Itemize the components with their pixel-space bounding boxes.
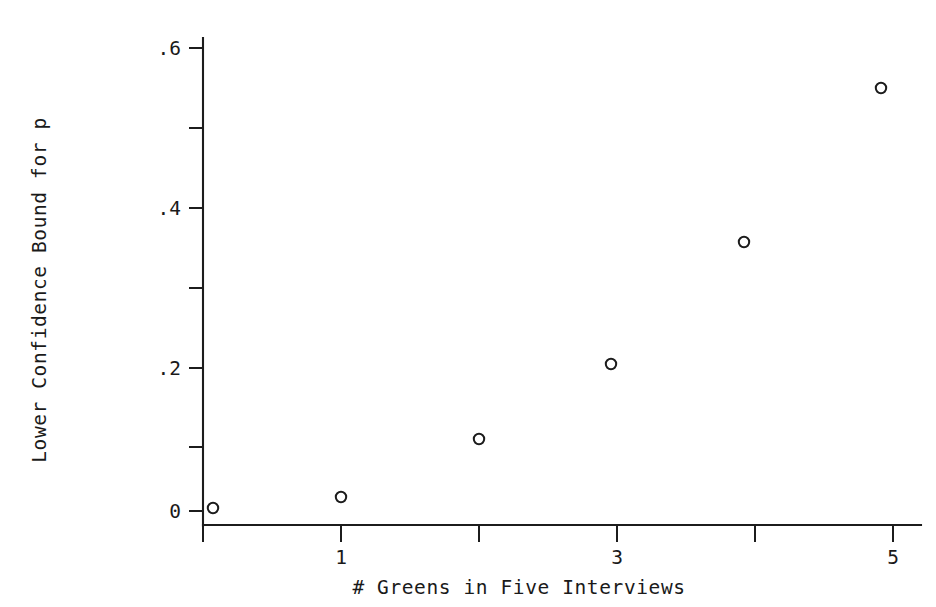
- y-tick-label-0.4: .4: [158, 197, 181, 220]
- data-point: [876, 83, 886, 93]
- data-point: [606, 359, 616, 369]
- x-tick-label-5: 5: [887, 546, 899, 569]
- data-point: [208, 503, 218, 513]
- scatter-plot-figure: .6 .4 .2 0 1 3 5 # Greens in Five Interv…: [0, 0, 936, 607]
- plot-canvas: .6 .4 .2 0 1 3 5 # Greens in Five Interv…: [0, 0, 936, 607]
- data-series-lower-confidence-bound: [208, 83, 886, 513]
- data-point: [336, 492, 346, 502]
- y-tick-label-0: 0: [169, 500, 181, 523]
- y-tick-label-0.2: .2: [158, 357, 181, 380]
- data-point: [474, 434, 484, 444]
- y-axis-title: Lower Confidence Bound for p: [28, 117, 51, 463]
- x-tick-label-1: 1: [335, 546, 347, 569]
- x-tick-label-3: 3: [611, 546, 623, 569]
- data-point: [739, 237, 749, 247]
- y-tick-label-0.6: .6: [158, 37, 181, 60]
- x-axis-title: # Greens in Five Interviews: [352, 576, 685, 599]
